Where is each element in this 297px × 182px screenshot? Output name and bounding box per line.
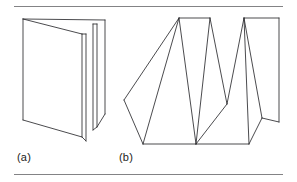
panel-a-caption: (a) [17,151,31,163]
panel-b-caption: (b) [119,151,133,163]
panel-b-accordion-fold [124,18,279,144]
panel-a-bottom-back-edge [97,114,105,127]
figure-page: (a) (b) [0,0,297,182]
panel-a-leaf-two-face [93,24,97,130]
panel-a-leaf-one-face [82,34,86,141]
panel-a-front-face [23,19,82,137]
panel-a-book-fold [23,19,105,141]
bottom-rule [14,174,283,175]
figure-illustration [0,0,297,182]
